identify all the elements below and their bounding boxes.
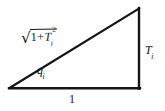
radicand-subscript-i: i [51, 39, 53, 48]
radicand-one: 1 [31, 29, 37, 43]
radicand-exponent-two: 2 [52, 24, 56, 33]
triangle-outline-svg [0, 0, 165, 111]
hypotenuse-label: √1+Ti2 [21, 30, 57, 46]
triangle-hypotenuse-line [10, 8, 140, 88]
angle-label: qi [37, 64, 45, 76]
opposite-side-label: Ti [145, 44, 153, 56]
opposite-subscript-i: i [151, 52, 153, 61]
triangle-diagram: √1+Ti2 qi Ti 1 [0, 0, 165, 111]
radicand-group: 1+Ti2 [30, 29, 57, 43]
angle-subscript-i: i [43, 72, 45, 81]
adjacent-value-one: 1 [69, 92, 75, 106]
adjacent-side-label: 1 [69, 93, 75, 105]
